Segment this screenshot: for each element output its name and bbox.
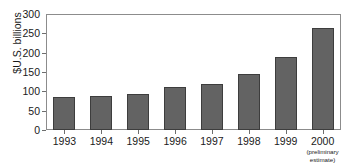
y-axis-tick-mark (42, 72, 46, 73)
y-axis-tick-label: 250 (14, 28, 40, 38)
y-axis-tick-label: 300 (14, 9, 40, 19)
x-axis-tick-label-note-line2: estimate) (293, 156, 353, 163)
x-axis-tick-labels: 19931994199519961997199819992000(prelimi… (46, 136, 341, 166)
x-axis-tick-mark (138, 130, 139, 134)
x-axis-tick-label: 2000(preliminaryestimate) (293, 136, 353, 163)
x-axis-tick-mark (101, 130, 102, 134)
y-axis-tick-mark (42, 33, 46, 34)
y-axis-tick-mark (42, 111, 46, 112)
bar (201, 84, 223, 130)
y-axis-tick-label: 50 (14, 106, 40, 116)
bar (53, 97, 75, 130)
bar (312, 28, 334, 130)
y-axis-tick-label: 150 (14, 67, 40, 77)
y-axis-tick-mark (42, 91, 46, 92)
y-axis-tick-label: 100 (14, 86, 40, 96)
x-axis-tick-mark (64, 130, 65, 134)
bar (127, 94, 149, 130)
x-axis-tick-mark (249, 130, 250, 134)
y-axis-tick-mark (42, 53, 46, 54)
x-axis-tick-label-year: 2000 (311, 135, 334, 147)
bar (238, 74, 260, 130)
y-axis-tick-mark (42, 130, 46, 131)
x-axis-tick-mark (212, 130, 213, 134)
bar-chart: $U.S. billions 050100150200250300 199319… (0, 0, 353, 166)
x-axis-tick-mark (323, 130, 324, 134)
x-axis-tick-mark (175, 130, 176, 134)
bars-layer (46, 14, 341, 130)
bar (90, 96, 112, 130)
x-axis-tick-mark (286, 130, 287, 134)
bar (275, 57, 297, 130)
bar (164, 87, 186, 130)
y-axis-tick-label: 0 (14, 125, 40, 135)
x-axis-tick-label-note-line1: (preliminary (293, 148, 353, 155)
y-axis-tick-label: 200 (14, 48, 40, 58)
